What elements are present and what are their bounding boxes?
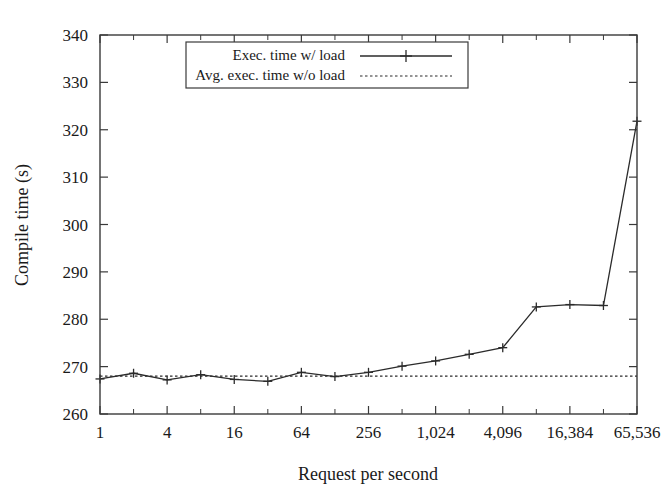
y-tick-label: 260 — [63, 405, 89, 424]
y-tick-label: 290 — [63, 263, 89, 282]
x-axis-title: Request per second — [298, 464, 438, 484]
x-tick-label: 4,096 — [484, 423, 522, 442]
y-axis-title: Compile time (s) — [12, 164, 33, 286]
y-tick-label: 310 — [63, 168, 89, 187]
x-tick-label: 4 — [163, 423, 172, 442]
y-tick-label: 320 — [63, 121, 89, 140]
x-tick-label: 1,024 — [417, 423, 456, 442]
legend: Exec. time w/ load Avg. exec. time w/o l… — [186, 42, 468, 88]
x-tick-label: 64 — [293, 423, 311, 442]
legend-label-exec-time-with-load: Exec. time w/ load — [233, 47, 346, 63]
y-tick-label: 300 — [63, 216, 89, 235]
x-tick-label: 1 — [96, 423, 105, 442]
chart-figure: 260270280290300310320330340 1416642561,0… — [0, 0, 668, 502]
y-tick-label: 330 — [63, 73, 89, 92]
x-tick-label: 256 — [356, 423, 382, 442]
x-tick-label: 16 — [226, 423, 243, 442]
x-tick-label: 16,384 — [547, 423, 594, 442]
y-tick-label: 270 — [63, 358, 89, 377]
legend-label-avg-exec-time-without-load: Avg. exec. time w/o load — [195, 67, 345, 83]
y-tick-label: 280 — [63, 310, 89, 329]
x-tick-label: 65,536 — [614, 423, 661, 442]
compile-time-vs-request-rate-chart: 260270280290300310320330340 1416642561,0… — [0, 0, 668, 502]
y-tick-label: 340 — [63, 26, 89, 45]
